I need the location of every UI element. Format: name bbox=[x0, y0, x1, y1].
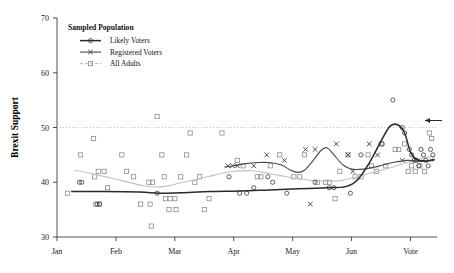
chart-background bbox=[0, 0, 454, 273]
x-tick-label: Feb bbox=[110, 247, 122, 256]
legend-label-1: Registered Voters bbox=[110, 48, 162, 57]
legend-label-0: Likely Voters bbox=[110, 36, 150, 45]
x-tick-label: Mar bbox=[168, 247, 182, 256]
x-tick-label: May bbox=[285, 247, 300, 256]
x-tick-label: Apr bbox=[228, 247, 241, 256]
x-tick-label: Vote bbox=[403, 247, 418, 256]
y-tick-label: 70 bbox=[41, 14, 49, 23]
legend-label-2: All Adults bbox=[110, 59, 141, 68]
brexit-support-chart: 3040506070JanFebMarAprMayJunVoteBrexit S… bbox=[0, 0, 454, 273]
x-tick-label: Jan bbox=[52, 247, 63, 256]
legend-title: Sampled Population bbox=[68, 23, 134, 32]
y-tick-label: 40 bbox=[41, 178, 49, 187]
x-tick-label: Jun bbox=[346, 247, 357, 256]
y-axis-title: Brexit Support bbox=[10, 96, 20, 158]
y-tick-label: 30 bbox=[41, 233, 49, 242]
y-tick-label: 50 bbox=[41, 124, 49, 133]
y-tick-label: 60 bbox=[41, 69, 49, 78]
